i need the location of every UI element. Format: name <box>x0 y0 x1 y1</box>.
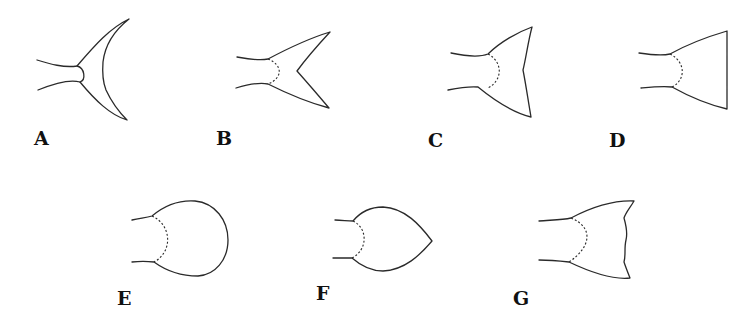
fin-e-rounded: E <box>117 201 228 309</box>
fin-b-forked: B <box>216 32 330 149</box>
caudal-fin-diagram: A B C D E F G <box>0 0 752 319</box>
label-g: G <box>513 287 529 309</box>
fin-d-truncate: D <box>609 31 727 151</box>
fin-a-lunate: A <box>33 19 129 149</box>
fin-c-emarginate: C <box>428 27 532 151</box>
fin-f-pointed: F <box>316 207 432 304</box>
label-c: C <box>428 129 443 151</box>
label-d: D <box>609 129 625 151</box>
label-b: B <box>216 127 232 149</box>
label-a: A <box>33 127 49 149</box>
fin-g-double-emarginate: G <box>513 201 634 309</box>
label-f: F <box>316 282 330 304</box>
label-e: E <box>117 287 131 309</box>
